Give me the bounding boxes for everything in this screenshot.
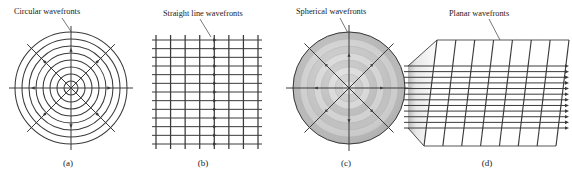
ray-arrowhead [31,86,35,89]
ray-arrowhead [565,98,569,102]
callout-label-planar: Planar wavefronts [449,9,509,18]
ray-arrowhead [213,116,217,119]
wavefront-ray [27,88,71,132]
ray-arrowhead [69,124,72,128]
ray-arrowhead [565,104,569,108]
figure-canvas: Circular wavefrontsStraight line wavefro… [0,0,572,173]
wavefronts-figure: Circular wavefrontsStraight line wavefro… [0,0,572,173]
wavefront-ray [71,88,115,132]
ray-arrowhead [213,125,217,128]
ray-arrowhead [565,64,569,68]
callout-label-straight: Straight line wavefronts [163,9,243,18]
ray-arrowhead [213,47,217,50]
panel-c [286,25,412,151]
ray-arrowhead [565,70,569,74]
ray-arrowhead [565,126,569,130]
planar-wavefront [499,40,512,146]
ray-arrowhead [565,81,569,85]
ray-arrowhead [213,90,217,93]
ray-arrowhead [213,64,217,67]
ray-arrowhead [565,75,569,79]
panel-caption-b: (b) [198,158,209,168]
panel-caption-d: (d) [482,158,493,168]
ray-arrowhead [565,87,569,91]
planar-wavefront [518,40,531,146]
ray-arrowhead [213,73,217,76]
ray-arrowhead [213,134,217,137]
callout-label-circular: Circular wavefronts [14,7,80,16]
callout-leader-spherical [340,18,348,33]
planar-wavefront [556,40,569,146]
panel-b [152,35,262,149]
wavefront-ray [71,44,115,88]
planar-wavefront [443,40,456,146]
callout-label-spherical: Spherical wavefronts [296,7,366,16]
ray-arrowhead [565,92,569,96]
ray-arrowhead [107,86,111,89]
ray-arrowhead [213,142,217,145]
ray-arrowhead [213,108,217,111]
planar-wavefront [537,40,550,146]
callout-leader-straight [200,19,211,37]
ray-arrowhead [213,82,217,85]
wavefront-beam [408,40,437,146]
ray-arrowhead [565,121,569,125]
panel-caption-a: (a) [63,158,73,168]
ray-arrowhead [69,48,72,52]
callout-leader-circular [62,18,72,33]
ray-arrowhead [213,99,217,102]
wavefront-ray [27,44,71,88]
panel-caption-c: (c) [341,158,351,168]
ray-arrowhead [213,38,217,41]
ray-arrowhead [565,109,569,113]
callout-leader-planar [489,19,500,40]
ray-arrowhead [565,115,569,119]
panel-d [404,40,569,146]
panel-a [9,26,133,150]
planar-wavefront [481,40,494,146]
ray-arrowhead [213,56,217,59]
planar-wavefront [462,40,475,146]
